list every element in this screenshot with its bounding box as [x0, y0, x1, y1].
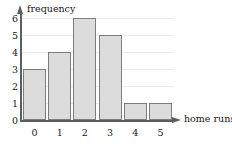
bar: [149, 103, 172, 120]
bar: [48, 52, 71, 120]
y-tick-label: 5: [4, 31, 18, 41]
y-tick-label: 4: [4, 48, 18, 58]
x-tick-label: 1: [48, 128, 72, 138]
y-tick-label: 3: [4, 65, 18, 75]
x-axis-title: home runs: [184, 113, 232, 124]
x-tick-label: 4: [123, 128, 147, 138]
x-tick-label: 3: [98, 128, 122, 138]
histogram-chart: frequency home runs 0123456 012345: [0, 0, 232, 146]
x-axis-arrow-icon: [172, 117, 181, 123]
y-axis-line: [20, 14, 22, 121]
x-tick-label: 0: [23, 128, 47, 138]
y-tick-label: 0: [4, 116, 18, 126]
bar: [73, 18, 96, 120]
y-axis-title: frequency: [27, 3, 75, 14]
bars-group: [22, 14, 170, 120]
bar: [23, 69, 46, 120]
bar: [124, 103, 147, 120]
y-axis-tick-labels: 0123456: [0, 0, 18, 146]
y-tick-label: 6: [4, 14, 18, 24]
x-tick-label: 5: [149, 128, 173, 138]
y-tick-label: 2: [4, 82, 18, 92]
bar: [99, 35, 122, 120]
x-axis-line: [20, 120, 173, 122]
x-tick-label: 2: [73, 128, 97, 138]
y-tick-label: 1: [4, 99, 18, 109]
